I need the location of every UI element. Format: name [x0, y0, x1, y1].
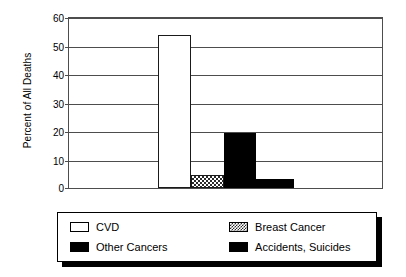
legend-swatch-checkered-icon	[229, 222, 248, 232]
legend-label-accidents-suicides: Accidents, Suicides	[255, 242, 350, 253]
bar-group	[69, 18, 382, 188]
legend-label-other-cancers: Other Cancers	[96, 242, 168, 253]
y-tick-label-50: 50	[53, 41, 64, 52]
bar-cvd	[158, 35, 191, 188]
tick-mark-0	[65, 188, 69, 189]
legend-label-cvd: CVD	[96, 222, 119, 233]
y-tick-label-20: 20	[53, 127, 64, 138]
legend-item-accidents-suicides: Accidents, Suicides	[229, 242, 376, 253]
legend-swatch-black-icon	[70, 242, 89, 252]
gridline-0: 0	[69, 188, 382, 189]
bar-chart-figure: Percent of All Deaths 60 50 40 30 20 10	[0, 0, 406, 277]
y-tick-label-40: 40	[53, 70, 64, 81]
legend-item-cvd: CVD	[70, 222, 229, 233]
legend-swatch-black-icon	[229, 242, 248, 252]
y-tick-label-30: 30	[53, 98, 64, 109]
bar-breast-cancer	[191, 175, 224, 188]
legend-box: CVD Breast Cancer Other Cancers Accident…	[57, 212, 377, 262]
legend-label-breast-cancer: Breast Cancer	[255, 222, 325, 233]
plot-area: 60 50 40 30 20 10 0	[68, 17, 383, 189]
y-axis-title: Percent of All Deaths	[22, 16, 33, 186]
legend-item-other-cancers: Other Cancers	[70, 242, 229, 253]
y-tick-label-60: 60	[53, 13, 64, 24]
y-tick-label-10: 10	[53, 155, 64, 166]
bar-accidents-suicides	[256, 179, 294, 188]
y-tick-label-0: 0	[58, 183, 64, 194]
legend-swatch-white-icon	[70, 222, 89, 232]
legend-item-breast-cancer: Breast Cancer	[229, 222, 376, 233]
bar-other-cancers	[224, 133, 256, 188]
